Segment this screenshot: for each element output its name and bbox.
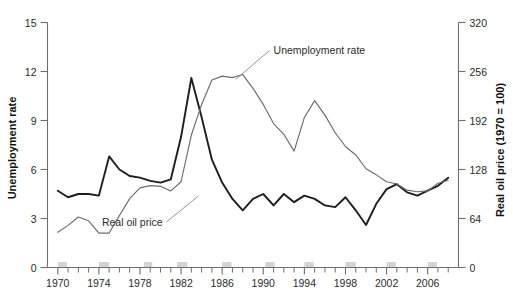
x-tick-label: 1998 bbox=[334, 277, 358, 289]
recession-band bbox=[177, 262, 187, 268]
leader-line-unemployment bbox=[236, 51, 270, 80]
y-tick-label: 12 bbox=[25, 66, 37, 78]
recession-band bbox=[58, 262, 67, 268]
y-tick-label: 3 bbox=[31, 213, 37, 225]
annotation-unemployment-rate: Unemployment rate bbox=[274, 44, 366, 56]
y-tick-label: 6 bbox=[31, 164, 37, 176]
x-tick-label: 1978 bbox=[128, 277, 152, 289]
y2-tick-label: 64 bbox=[470, 213, 482, 225]
recession-bands bbox=[58, 262, 437, 268]
x-axis: 1970197419781982198619901994199820022006 bbox=[46, 268, 458, 289]
y2-tick-label: 128 bbox=[470, 164, 488, 176]
y-axis-right-title: Real oil price (1970 = 100) bbox=[494, 83, 506, 218]
y-axis-left: 03691215 bbox=[25, 17, 48, 274]
x-tick-label: 2002 bbox=[375, 277, 399, 289]
x-tick-label: 1970 bbox=[46, 277, 70, 289]
recession-band bbox=[144, 262, 152, 268]
recession-band bbox=[345, 262, 355, 268]
economic-line-chart: 1970197419781982198619901994199820022006… bbox=[0, 0, 513, 302]
y2-tick-label: 320 bbox=[470, 17, 488, 29]
series-lines bbox=[58, 75, 448, 233]
x-tick-label: 2006 bbox=[416, 277, 440, 289]
recession-band bbox=[387, 262, 396, 268]
annotation-real-oil-price: Real oil price bbox=[102, 216, 163, 228]
recession-band bbox=[304, 262, 313, 268]
y2-tick-label: 256 bbox=[470, 66, 488, 78]
y2-tick-label: 0 bbox=[470, 262, 476, 274]
chart-canvas: 1970197419781982198619901994199820022006… bbox=[0, 0, 513, 302]
y-tick-label: 9 bbox=[31, 115, 37, 127]
x-tick-label: 1974 bbox=[87, 277, 111, 289]
y-tick-label: 0 bbox=[31, 262, 37, 274]
y-axis-left-title: Unemployment rate bbox=[6, 97, 18, 200]
recession-band bbox=[428, 262, 437, 268]
y2-tick-label: 192 bbox=[470, 115, 488, 127]
series-line-unemployment-rate bbox=[58, 78, 448, 225]
y-tick-label: 15 bbox=[25, 17, 37, 29]
recession-band bbox=[222, 262, 231, 268]
x-tick-label: 1990 bbox=[252, 277, 276, 289]
x-tick-label: 1982 bbox=[169, 277, 193, 289]
x-tick-label: 1986 bbox=[210, 277, 234, 289]
y-axis-right: 064128192256320 bbox=[459, 17, 488, 274]
leader-line-oil bbox=[167, 196, 199, 222]
recession-band bbox=[265, 262, 274, 268]
recession-band bbox=[99, 262, 109, 268]
x-tick-label: 1994 bbox=[293, 277, 317, 289]
series-line-real-oil-price bbox=[58, 75, 448, 233]
